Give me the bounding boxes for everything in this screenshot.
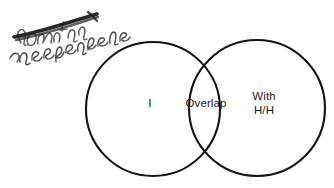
overlap-label: Overlap: [180, 97, 232, 111]
right-set-label: With H/H: [236, 90, 292, 117]
left-set-label: I: [124, 97, 176, 111]
